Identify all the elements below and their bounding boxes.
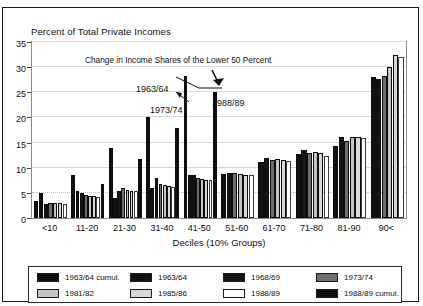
chart-title: Percent of Total Private Incomes xyxy=(31,26,171,37)
x-axis-tick-label: 90< xyxy=(379,223,394,233)
bar xyxy=(34,201,38,218)
bar xyxy=(232,173,237,218)
legend: 1963/64 cumul.1963/641968/691973/741981/… xyxy=(28,266,402,303)
y-axis-tick-label: 25 xyxy=(16,89,26,99)
bar xyxy=(192,175,196,218)
bar xyxy=(270,160,275,218)
legend-swatch xyxy=(37,273,59,282)
legend-label: 1963/64 xyxy=(158,272,187,283)
bar xyxy=(324,156,329,218)
annotation-title: Change in Income Shares of the Lower 50 … xyxy=(85,55,271,65)
legend-label: 1985/86 xyxy=(158,288,187,299)
bar xyxy=(63,204,67,218)
bar xyxy=(138,159,142,218)
legend-label: 1963/64 cumul. xyxy=(65,272,120,283)
bar xyxy=(101,184,105,218)
legend-swatch xyxy=(316,289,338,298)
bar xyxy=(296,154,301,218)
bar xyxy=(175,128,179,219)
bar xyxy=(249,175,254,218)
bar xyxy=(48,203,52,218)
gridline xyxy=(32,41,406,42)
x-axis-tick-label: 81-90 xyxy=(337,223,360,233)
bar xyxy=(301,150,306,218)
bar xyxy=(286,161,291,218)
bar xyxy=(376,79,381,218)
y-axis: 05101520253035 xyxy=(3,41,31,219)
x-axis-tick-label: 11-20 xyxy=(76,223,98,233)
x-axis-tick-label: 41-50 xyxy=(188,223,211,233)
legend-label: 1988/89 cumul. xyxy=(344,288,399,299)
bar xyxy=(361,138,366,218)
legend-swatch xyxy=(223,289,245,298)
gridline xyxy=(32,91,406,92)
annotation-1973: 1973/74 xyxy=(150,105,183,115)
bar xyxy=(355,137,360,218)
bar xyxy=(339,137,344,218)
y-axis-tick-label: 0 xyxy=(21,215,26,225)
bar xyxy=(53,203,57,218)
annotation-1963: 1963/64 xyxy=(136,84,169,94)
chart-frame: Percent of Total Private Incomes 0510152… xyxy=(2,7,419,302)
bar xyxy=(167,186,171,218)
legend-swatch xyxy=(37,289,59,298)
x-axis-tick-label: 31-40 xyxy=(150,223,173,233)
x-axis-tick-label: 51-60 xyxy=(225,223,248,233)
y-axis-tick-label: 30 xyxy=(16,64,26,74)
y-axis-tick-label: 35 xyxy=(16,39,26,49)
annotation-1988: 1988/89 xyxy=(212,98,245,108)
bar xyxy=(281,160,286,218)
bar xyxy=(121,188,125,218)
bar xyxy=(387,67,392,218)
bar xyxy=(307,153,312,218)
bar xyxy=(221,174,226,218)
bar xyxy=(44,204,48,218)
bar xyxy=(227,173,232,218)
gridline xyxy=(32,66,406,67)
legend-swatch xyxy=(130,273,152,282)
legend-swatch xyxy=(130,289,152,298)
bar xyxy=(39,193,43,218)
bar xyxy=(76,191,80,218)
x-axis-tick-label: 71-80 xyxy=(300,223,323,233)
gridline xyxy=(32,116,406,117)
bar xyxy=(393,55,398,218)
bar xyxy=(350,137,355,218)
bar xyxy=(213,92,217,218)
bar xyxy=(96,197,100,218)
bar xyxy=(371,77,376,218)
y-axis-tick-label: 5 xyxy=(21,190,26,200)
bar xyxy=(58,203,62,218)
bar xyxy=(313,152,318,218)
x-axis-tick-label: 21-30 xyxy=(113,223,136,233)
bar xyxy=(243,175,248,218)
x-axis-tick-label: 61-70 xyxy=(263,223,286,233)
y-axis-tick-label: 20 xyxy=(16,114,26,124)
y-axis-tick-label: 10 xyxy=(16,165,26,175)
plot-area xyxy=(31,41,407,219)
legend-label: 1973/74 xyxy=(344,272,373,283)
bar xyxy=(318,153,323,218)
bar xyxy=(344,141,349,218)
legend-label: 1968/69 xyxy=(251,272,280,283)
bar xyxy=(382,76,387,218)
x-axis-tick-label: <10 xyxy=(42,223,57,233)
legend-label: 1988/89 xyxy=(251,288,280,299)
legend-label: 1981/82 xyxy=(65,288,94,299)
legend-swatch xyxy=(223,273,245,282)
legend-swatch xyxy=(316,273,338,282)
bar xyxy=(333,146,338,218)
x-axis-title: Deciles (10% Groups) xyxy=(31,237,407,248)
bar xyxy=(146,117,150,218)
bar xyxy=(238,174,243,218)
bar xyxy=(398,57,403,218)
bar xyxy=(258,162,263,218)
y-axis-tick-label: 15 xyxy=(16,140,26,150)
bar xyxy=(275,159,280,218)
bar xyxy=(264,158,269,218)
